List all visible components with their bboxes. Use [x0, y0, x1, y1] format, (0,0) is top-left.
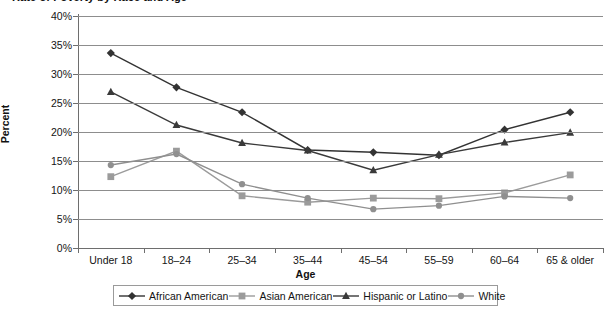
gridline [78, 45, 603, 46]
chart-legend: African AmericanAsian AmericanHispanic o… [113, 285, 498, 306]
x-axis-tick-mark [144, 248, 145, 253]
gridline [78, 74, 603, 75]
data-point-marker [107, 88, 115, 95]
y-axis-tick-label: 30% [51, 68, 72, 80]
y-axis-title: Percent [0, 105, 11, 144]
y-axis-tick-mark [73, 103, 78, 104]
y-axis-tick-label: 10% [51, 184, 72, 196]
y-axis-tick-label: 25% [51, 97, 72, 109]
data-point-marker [107, 173, 114, 180]
legend-item-asian-american[interactable]: Asian American [228, 290, 332, 302]
data-point-marker [436, 195, 443, 202]
y-axis-tick-mark [73, 16, 78, 17]
data-point-marker [239, 181, 245, 187]
x-axis-tick-mark [472, 248, 473, 253]
y-axis-tick-label: 35% [51, 39, 72, 51]
legend-label: Asian American [259, 290, 332, 302]
x-axis-tick-label: 18–24 [162, 254, 191, 266]
y-axis-tick-mark [73, 161, 78, 162]
data-point-marker [370, 195, 377, 202]
data-point-marker [436, 203, 442, 209]
y-axis-tick-labels: 40%35%30%25%20%15%10%5%0% [38, 0, 72, 313]
x-axis-tick-mark [209, 248, 210, 253]
x-axis-tick-mark [78, 248, 79, 253]
x-axis-tick-mark [537, 248, 538, 253]
plot-area [78, 16, 603, 248]
gridline [78, 132, 603, 133]
x-axis-tick-label: 65 & older [546, 254, 594, 266]
series-line [111, 154, 570, 209]
y-axis-tick-label: 15% [51, 155, 72, 167]
data-point-marker [173, 151, 179, 157]
data-point-marker [369, 148, 377, 156]
y-axis-tick-label: 5% [57, 213, 72, 225]
x-axis-tick-label: 55–59 [424, 254, 453, 266]
x-axis-tick-label: 60–64 [490, 254, 519, 266]
y-axis-tick-mark [73, 132, 78, 133]
y-axis-tick-mark [73, 74, 78, 75]
data-point-marker [238, 108, 246, 116]
series-line [111, 53, 570, 155]
data-point-marker [566, 108, 574, 116]
data-point-marker [107, 49, 115, 57]
y-axis-tick-mark [73, 219, 78, 220]
y-axis-tick-mark [73, 190, 78, 191]
legend-item-african-american[interactable]: African American [118, 290, 228, 302]
legend-item-hispanic-or-latino[interactable]: Hispanic or Latino [332, 290, 447, 302]
gridline [78, 103, 603, 104]
square-marker-icon [228, 290, 256, 302]
legend-item-white[interactable]: White [447, 290, 505, 302]
x-axis-tick-label: 35–44 [293, 254, 322, 266]
legend-label: African American [149, 290, 228, 302]
data-point-marker [567, 195, 573, 201]
gridline [78, 16, 603, 17]
data-point-marker [370, 206, 376, 212]
circle-marker-icon [447, 290, 475, 302]
gridline [78, 190, 603, 191]
x-axis-tick-mark [275, 248, 276, 253]
y-axis-tick-label: 0% [57, 242, 72, 254]
x-axis-tick-mark [406, 248, 407, 253]
x-axis-tick-label: Under 18 [89, 254, 132, 266]
data-point-marker [239, 192, 246, 199]
data-point-marker [173, 121, 181, 128]
diamond-marker-icon [118, 290, 146, 302]
gridline [78, 161, 603, 162]
x-axis-tick-mark [603, 248, 604, 253]
x-axis-tick-label: 45–54 [359, 254, 388, 266]
x-axis-tick-mark [341, 248, 342, 253]
data-point-marker [501, 193, 507, 199]
y-axis-tick-label: 40% [51, 10, 72, 22]
data-point-marker [108, 162, 114, 168]
x-axis-tick-label: 25–34 [227, 254, 256, 266]
legend-label: White [478, 290, 505, 302]
data-point-marker [172, 83, 180, 91]
x-axis-title: Age [0, 268, 611, 280]
legend-label: Hispanic or Latino [363, 290, 447, 302]
gridline [78, 219, 603, 220]
y-axis-tick-label: 20% [51, 126, 72, 138]
chart-container: Rate of Poverty by Race and Age 40%35%30… [0, 0, 611, 313]
data-point-marker [305, 195, 311, 201]
data-point-marker [567, 172, 574, 179]
triangle-marker-icon [332, 290, 360, 302]
y-axis-tick-mark [73, 45, 78, 46]
